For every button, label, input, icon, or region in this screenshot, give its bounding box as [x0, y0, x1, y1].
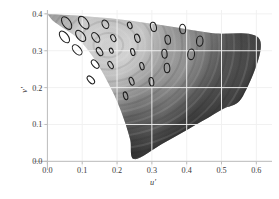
x-tick-label: 0.0 [42, 166, 52, 175]
x-tick-label: 0.4 [182, 166, 192, 175]
x-axis-title: u′ [150, 178, 156, 187]
y-tick-label: 0.4 [32, 10, 42, 19]
y-axis-title: v′ [20, 87, 29, 93]
chromaticity-diagram-figure: 0.00.10.20.30.40.50.6 0.00.10.20.30.4 u′… [0, 0, 279, 199]
x-tick-label: 0.6 [251, 166, 261, 175]
chromaticity-plot: 0.00.10.20.30.40.50.6 0.00.10.20.30.4 u′… [0, 0, 279, 199]
y-tick-label: 0.3 [32, 47, 42, 56]
x-tick-label: 0.3 [147, 166, 157, 175]
y-tick-label: 0.0 [32, 157, 42, 166]
y-tick-label: 0.2 [32, 84, 42, 93]
x-tick-label: 0.2 [112, 166, 122, 175]
y-tick-label: 0.1 [32, 120, 42, 129]
x-tick-label: 0.1 [77, 166, 87, 175]
x-tick-label: 0.5 [216, 166, 226, 175]
